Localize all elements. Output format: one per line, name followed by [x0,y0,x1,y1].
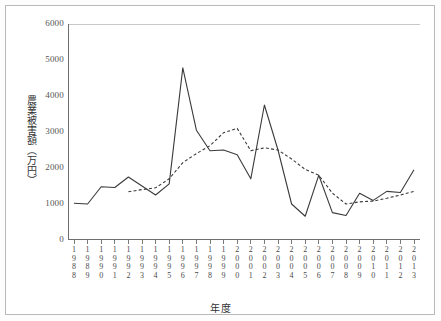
x-tick-2002: 2002 [257,240,271,280]
x-tick-1995: 1995 [162,240,176,280]
x-tick-label: 1997 [189,246,203,280]
tick-mark [87,240,88,244]
x-tick-label: 1992 [121,246,135,280]
x-axis-title: 年度 [0,300,441,315]
tick-mark [196,240,197,244]
x-tick-1999: 1999 [217,240,231,280]
tick-mark [155,240,156,244]
tick-mark [114,240,115,244]
x-tick-2004: 2004 [285,240,299,280]
x-tick-2009: 2009 [353,240,367,280]
x-tick-label: 1996 [176,246,190,280]
x-tick-2003: 2003 [271,240,285,280]
tick-mark [237,240,238,244]
y-tick-2000: 2000 [24,163,64,172]
tick-mark [278,240,279,244]
x-tick-2005: 2005 [298,240,312,280]
y-tick-1000: 1000 [24,199,64,208]
tick-mark [291,240,292,244]
x-tick-label: 2008 [339,246,353,280]
x-tick-label: 1988 [67,246,81,280]
x-tick-label: 2006 [312,246,326,280]
tick-mark [210,240,211,244]
x-tick-label: 1991 [108,246,122,280]
x-tick-label: 2002 [257,246,271,280]
series-canvas [68,24,420,240]
x-tick-1990: 1990 [94,240,108,280]
y-axis-tick-labels: 0100020003000400050006000 [20,24,64,240]
x-tick-1993: 1993 [135,240,149,280]
x-tick-1996: 1996 [176,240,190,280]
tick-mark [318,240,319,244]
tick-mark [305,240,306,244]
x-tick-2008: 2008 [339,240,353,280]
tick-mark [264,240,265,244]
tick-mark [373,240,374,244]
x-tick-label: 1993 [135,246,149,280]
tick-mark [386,240,387,244]
tick-mark [332,240,333,244]
x-tick-2000: 2000 [230,240,244,280]
tick-mark [142,240,143,244]
x-tick-label: 2013 [407,246,421,280]
chart-page: 農業被害額（万円） 0100020003000400050006000 1988… [0,0,441,321]
x-tick-label: 2009 [353,246,367,280]
tick-mark [101,240,102,244]
x-tick-label: 1995 [162,246,176,280]
x-axis-tick-labels: 1988198919901991199219931994199519961997… [68,240,420,300]
tick-mark [182,240,183,244]
x-tick-label: 2004 [285,246,299,280]
x-tick-2011: 2011 [380,240,394,280]
x-tick-2007: 2007 [325,240,339,280]
x-tick-1994: 1994 [149,240,163,280]
x-tick-label: 2011 [380,246,394,280]
tick-mark [414,240,415,244]
y-tick-3000: 3000 [24,127,64,136]
x-tick-1989: 1989 [81,240,95,280]
x-tick-1998: 1998 [203,240,217,280]
x-tick-label: 2003 [271,246,285,280]
tick-mark [128,240,129,244]
tick-mark [169,240,170,244]
tick-mark [250,240,251,244]
x-tick-2012: 2012 [393,240,407,280]
x-tick-label: 2000 [230,246,244,280]
tick-mark [359,240,360,244]
x-tick-1991: 1991 [108,240,122,280]
x-tick-1992: 1992 [121,240,135,280]
x-tick-label: 2010 [366,246,380,280]
tick-mark [223,240,224,244]
tick-mark [400,240,401,244]
x-tick-2010: 2010 [366,240,380,280]
x-tick-label: 1990 [94,246,108,280]
x-tick-label: 1999 [217,246,231,280]
tick-mark [74,240,75,244]
y-tick-0: 0 [24,235,64,244]
x-tick-2001: 2001 [244,240,258,280]
tick-mark [346,240,347,244]
x-tick-1988: 1988 [67,240,81,280]
x-tick-2006: 2006 [312,240,326,280]
series-line-solid [74,68,414,216]
x-tick-label: 1998 [203,246,217,280]
x-tick-label: 2007 [325,246,339,280]
y-tick-4000: 4000 [24,91,64,100]
x-tick-label: 1989 [81,246,95,280]
x-tick-label: 2012 [393,246,407,280]
x-tick-label: 1994 [149,246,163,280]
plot-area [68,24,420,240]
y-tick-6000: 6000 [24,19,64,28]
x-tick-label: 2005 [298,246,312,280]
x-tick-1997: 1997 [189,240,203,280]
y-tick-5000: 5000 [24,55,64,64]
x-tick-2013: 2013 [407,240,421,280]
x-tick-label: 2001 [244,246,258,280]
